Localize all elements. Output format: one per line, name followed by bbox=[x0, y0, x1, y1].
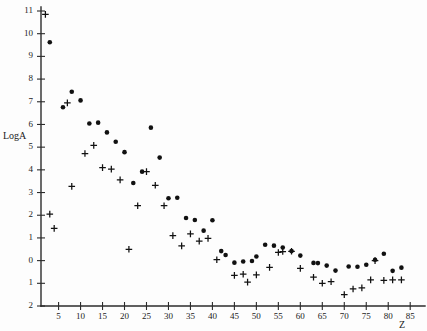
data-point-plus bbox=[196, 238, 203, 245]
data-point-plus bbox=[46, 211, 53, 218]
data-point-plus bbox=[288, 248, 295, 255]
data-point-dot bbox=[184, 216, 189, 221]
data-point-plus bbox=[398, 277, 405, 284]
data-point-dot bbox=[149, 125, 154, 130]
data-point-plus bbox=[161, 202, 168, 209]
data-point-dot bbox=[113, 139, 118, 144]
data-point-dot bbox=[193, 218, 198, 223]
data-point-dot bbox=[311, 261, 316, 266]
data-point-plus bbox=[42, 11, 49, 18]
data-point-dot bbox=[254, 254, 259, 259]
data-point-plus bbox=[297, 265, 304, 272]
data-point-plus bbox=[279, 248, 286, 255]
data-point-plus bbox=[170, 232, 177, 239]
data-point-plus bbox=[90, 142, 97, 149]
x-axis-title: Z bbox=[399, 319, 405, 330]
y-axis-title: LogA bbox=[3, 130, 27, 141]
data-point-dot bbox=[250, 259, 255, 264]
data-point-dot bbox=[241, 259, 246, 264]
data-point-plus bbox=[178, 243, 185, 250]
data-point-dot bbox=[390, 269, 395, 274]
data-point-plus bbox=[51, 225, 58, 232]
data-point-plus bbox=[244, 279, 251, 286]
data-point-plus bbox=[359, 285, 366, 292]
data-point-plus bbox=[381, 277, 388, 284]
x-tick-label: 85 bbox=[406, 311, 416, 321]
data-point-plus bbox=[253, 272, 260, 279]
data-point-dot bbox=[201, 228, 206, 233]
x-tick-label: 55 bbox=[274, 311, 284, 321]
data-point-plus bbox=[341, 291, 348, 298]
data-point-plus bbox=[187, 231, 194, 238]
y-tick-label: 9 bbox=[29, 50, 34, 60]
data-point-plus bbox=[310, 274, 317, 281]
data-point-plus bbox=[205, 235, 212, 242]
data-point-dot bbox=[232, 260, 237, 265]
y-tick-label: 7 bbox=[29, 96, 34, 106]
data-point-plus bbox=[240, 271, 247, 278]
data-point-dot bbox=[223, 253, 228, 258]
data-point-plus bbox=[82, 150, 89, 157]
data-point-dot bbox=[355, 264, 360, 269]
data-point-dot bbox=[87, 121, 92, 126]
y-tick-label: 1 bbox=[29, 232, 34, 242]
data-point-dot bbox=[105, 130, 110, 135]
x-tick-label: 15 bbox=[98, 311, 108, 321]
data-point-dot bbox=[157, 155, 162, 160]
x-tick-label: 25 bbox=[142, 311, 152, 321]
x-tick-label: 60 bbox=[296, 311, 306, 321]
data-point-plus bbox=[389, 277, 396, 284]
data-point-plus bbox=[68, 183, 75, 190]
data-point-dot bbox=[382, 252, 387, 257]
data-point-plus bbox=[214, 256, 221, 263]
data-point-dot bbox=[131, 181, 136, 186]
data-point-dot bbox=[210, 218, 215, 223]
figure-container: 1110987654321012 51015202530354045505560… bbox=[0, 0, 427, 331]
x-tick-label: 65 bbox=[318, 311, 328, 321]
scatter-plot: 1110987654321012 51015202530354045505560… bbox=[0, 0, 427, 331]
data-point-dot bbox=[122, 150, 127, 155]
x-tick-label: 75 bbox=[362, 311, 372, 321]
data-point-plus bbox=[143, 168, 150, 175]
data-point-plus bbox=[231, 272, 238, 279]
data-point-dot bbox=[78, 98, 83, 103]
data-point-plus bbox=[64, 100, 71, 107]
x-tick-label: 10 bbox=[76, 311, 86, 321]
y-tick-label: 5 bbox=[29, 141, 34, 151]
x-tick-label: 30 bbox=[164, 311, 174, 321]
y-tick-label: 11 bbox=[24, 5, 33, 15]
data-point-dot bbox=[166, 196, 171, 201]
data-point-dot bbox=[316, 261, 321, 266]
data-point-dot bbox=[96, 120, 101, 125]
y-tick-label: 1 bbox=[29, 277, 34, 287]
y-tick-label: 8 bbox=[29, 73, 34, 83]
data-point-dot bbox=[219, 249, 224, 254]
data-point-plus bbox=[350, 286, 357, 293]
data-point-plus bbox=[319, 280, 326, 287]
data-point-dot bbox=[263, 242, 268, 247]
y-tick-label: 4 bbox=[29, 164, 34, 174]
data-point-dot bbox=[298, 253, 303, 258]
x-tick-label: 5 bbox=[56, 311, 61, 321]
x-tick-label: 45 bbox=[230, 311, 240, 321]
data-point-dot bbox=[69, 89, 74, 94]
data-point-plus bbox=[134, 202, 141, 209]
data-point-plus bbox=[275, 249, 282, 256]
data-point-plus bbox=[99, 164, 106, 171]
data-point-dot bbox=[399, 265, 404, 270]
x-tick-label: 50 bbox=[252, 311, 262, 321]
y-tick-label: 6 bbox=[29, 119, 34, 129]
x-tick-label: 35 bbox=[186, 311, 196, 321]
y-tick-label: 0 bbox=[29, 255, 34, 265]
y-tick-label: 2 bbox=[29, 300, 34, 310]
series-filled-circle bbox=[47, 40, 403, 273]
data-point-plus bbox=[108, 166, 115, 173]
data-point-dot bbox=[364, 262, 369, 267]
data-point-plus bbox=[372, 257, 379, 264]
data-point-dot bbox=[324, 263, 329, 268]
y-axis-ticks: 1110987654321012 bbox=[24, 5, 45, 310]
data-point-dot bbox=[333, 268, 338, 273]
x-tick-label: 70 bbox=[340, 311, 350, 321]
x-axis-ticks: 510152025303540455055606570758085 bbox=[56, 302, 415, 321]
data-point-dot bbox=[61, 105, 66, 110]
